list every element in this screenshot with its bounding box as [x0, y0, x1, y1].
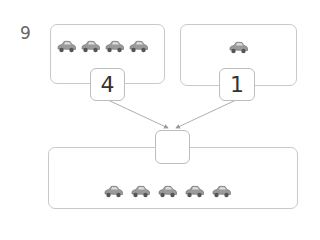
car-icon — [104, 38, 125, 51]
car-icon — [184, 183, 205, 196]
right-cars — [228, 39, 249, 52]
car-icon — [130, 183, 151, 196]
left-number-box: 4 — [90, 68, 125, 101]
car-icon — [103, 183, 124, 196]
car-icon — [56, 38, 77, 51]
car-icon — [211, 183, 232, 196]
total-cars — [103, 183, 232, 196]
car-icon — [128, 38, 149, 51]
car-icon — [228, 39, 249, 52]
left-cars — [56, 38, 149, 51]
answer-box[interactable] — [155, 130, 190, 164]
right-number-box: 1 — [219, 68, 255, 101]
car-icon — [157, 183, 178, 196]
car-icon — [80, 38, 101, 51]
